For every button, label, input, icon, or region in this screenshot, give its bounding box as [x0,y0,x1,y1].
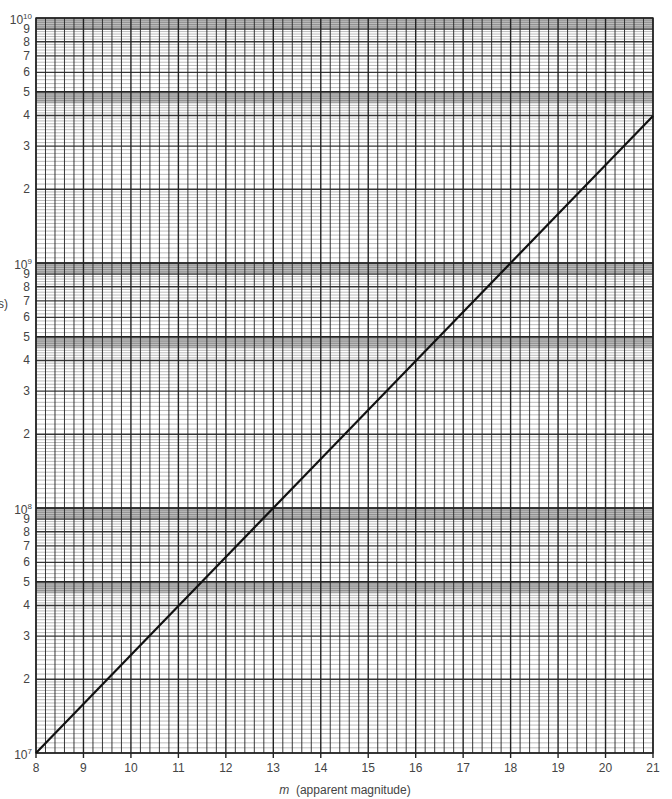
y-tick-label: 2 [2,183,30,195]
y-tick-label: 4 [2,354,30,366]
x-tick-label: 11 [163,761,193,775]
x-tick-label: 18 [496,761,526,775]
y-tick-label: 9 [2,268,30,280]
y-tick-label: 7 [2,50,30,62]
y-tick-label: 6 [2,66,30,78]
y-tick-label-decade: 107 [4,749,32,761]
x-axis-title-text: (apparent magnitude) [296,783,411,797]
y-tick-label: 6 [2,556,30,568]
x-tick-label: 10 [116,761,146,775]
y-tick-label: 7 [2,540,30,552]
x-tick-label: 13 [258,761,288,775]
y-tick-label: 5 [2,331,30,343]
x-tick-label: 8 [21,761,51,775]
shade-band [36,582,653,593]
y-tick-label: 4 [2,599,30,611]
x-tick-label: 9 [68,761,98,775]
shade-band [36,337,653,348]
chart-plot [0,0,672,799]
x-tick-label: 14 [306,761,336,775]
x-axis-title: m (apparent magnitude) [0,783,672,797]
y-tick-label: 7 [2,295,30,307]
y-tick-label: 3 [2,630,30,642]
y-tick-label: 2 [2,428,30,440]
y-tick-label: 6 [2,311,30,323]
y-tick-label: 9 [2,513,30,525]
shade-band [36,263,653,274]
x-tick-label: 16 [401,761,431,775]
y-tick-label: 2 [2,673,30,685]
y-tick-label: 9 [2,23,30,35]
y-tick-label: 5 [2,86,30,98]
shade-band [36,508,653,519]
y-tick-label: 8 [2,36,30,48]
y-tick-label: 5 [2,576,30,588]
y-tick-label: 8 [2,281,30,293]
y-tick-label: 3 [2,140,30,152]
x-tick-label: 15 [353,761,383,775]
shade-band [36,92,653,103]
x-tick-label: 17 [448,761,478,775]
x-tick-label: 19 [543,761,573,775]
x-tick-label: 12 [211,761,241,775]
shade-band [36,18,653,29]
y-tick-label: 8 [2,526,30,538]
x-tick-label: 20 [591,761,621,775]
x-axis-variable: m [279,783,289,797]
x-tick-label: 21 [638,761,668,775]
y-tick-label: 4 [2,109,30,121]
y-tick-label: 3 [2,385,30,397]
plot-border [36,18,653,753]
